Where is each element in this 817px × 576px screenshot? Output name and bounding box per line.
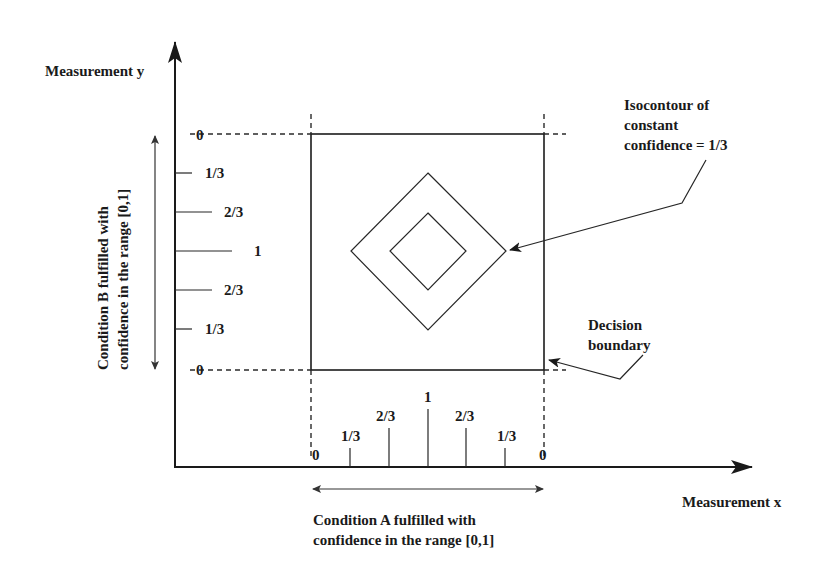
y-tick-label: 0 — [196, 362, 204, 378]
condition-a-label-line2: confidence in the range [0,1] — [313, 532, 494, 548]
y-axis-tick-labels: 0 1/3 2/3 1 2/3 1/3 0 — [196, 127, 262, 378]
decision-boundary-box — [311, 134, 544, 370]
confidence-diagram: Measurement y Measurement x 0 1/3 2/3 1 … — [0, 0, 817, 576]
isocontour-label-line2: constant — [624, 117, 678, 133]
decision-boundary-label-line1: Decision — [588, 317, 643, 333]
isocontour-label-line1: Isocontour of — [624, 97, 710, 113]
x-tick-label: 0 — [312, 447, 320, 463]
y-axis-label: Measurement y — [45, 63, 145, 79]
y-tick-label: 1/3 — [205, 321, 224, 337]
x-tick-label: 2/3 — [376, 408, 395, 424]
y-tick-label: 2/3 — [224, 204, 243, 220]
outer-isocontour-diamond — [351, 173, 506, 330]
x-tick-label: 0 — [539, 447, 547, 463]
isocontour-label-line3: confidence = 1/3 — [624, 137, 728, 153]
isocontour-annotation: Isocontour of constant confidence = 1/3 — [510, 97, 728, 250]
condition-b-label: Condition B fulfilled with confidence in… — [95, 189, 131, 370]
x-tick-label: 1/3 — [341, 428, 360, 444]
x-tick-label: 2/3 — [455, 408, 474, 424]
x-tick-label: 1/3 — [497, 428, 516, 444]
decision-boundary-label-line2: boundary — [588, 337, 651, 353]
x-axis-ticks — [350, 409, 505, 467]
y-tick-label: 0 — [196, 127, 204, 143]
x-tick-label: 1 — [424, 389, 432, 405]
condition-a-label-line1: Condition A fulfilled with — [313, 512, 477, 528]
y-tick-label: 1/3 — [205, 165, 224, 181]
y-tick-label: 1 — [254, 243, 262, 259]
y-axis-ticks — [175, 173, 232, 329]
condition-b-label-line2: confidence in the range [0,1] — [115, 189, 131, 370]
condition-b-label-line1: Condition B fulfilled with — [95, 206, 111, 370]
y-tick-label: 2/3 — [224, 282, 243, 298]
x-axis-tick-labels: 0 1/3 2/3 1 2/3 1/3 0 — [312, 389, 547, 463]
inner-isocontour-diamond — [390, 213, 466, 290]
x-axis-label: Measurement x — [682, 494, 782, 510]
